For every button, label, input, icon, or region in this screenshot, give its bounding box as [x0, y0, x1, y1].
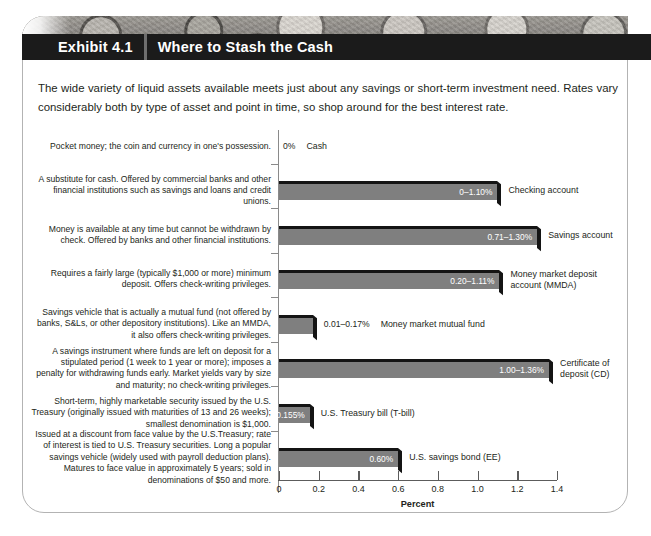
x-axis-tick-label: 0.4	[352, 484, 365, 494]
intro-paragraph: The wide variety of liquid assets availa…	[38, 79, 618, 117]
category-label: Money market deposit account (MMDA)	[510, 269, 597, 290]
x-axis-tick-label: 1.2	[511, 484, 524, 494]
chart-row: Issued at a discount from face value by …	[22, 436, 628, 480]
category-label: U.S. Treasury bill (T-bill)	[321, 408, 415, 419]
bar-value-label: 0.155%	[276, 410, 309, 420]
bar-wrapper: 0.01–0.17%Money market mutual fund	[279, 302, 485, 346]
y-axis-tick	[271, 253, 279, 254]
exhibit-number: Exhibit 4.1	[58, 39, 133, 55]
bar-wrapper: 0.155%U.S. Treasury bill (T-bill)	[279, 391, 415, 435]
category-label: Money market mutual fund	[381, 319, 485, 330]
x-axis-tick	[517, 471, 518, 480]
category-label: Savings account	[548, 230, 613, 241]
category-label: Checking account	[508, 185, 578, 196]
x-axis-tick-label: 1.4	[551, 484, 564, 494]
asset-description: A substitute for cash. Offered by commer…	[31, 174, 271, 208]
asset-description: Short-term, highly marketable security i…	[31, 396, 271, 430]
chart-row: Money is available at any time but canno…	[22, 213, 628, 257]
x-axis-tick	[438, 471, 439, 480]
asset-description: Requires a fairly large (typically $1,00…	[31, 268, 271, 291]
x-axis-tick-label: 0.2	[312, 484, 325, 494]
page-title: Where to Stash the Cash	[158, 39, 333, 55]
category-label: Certificate of deposit (CD)	[560, 358, 609, 379]
bar: 0.71–1.30%	[279, 226, 537, 245]
x-axis-tick	[478, 471, 479, 480]
bar: 0.60%	[279, 448, 398, 467]
chart-row: Requires a fairly large (typically $1,00…	[22, 258, 628, 302]
bar-value-label: 0–1.10%	[459, 187, 497, 197]
bar-value-label: 0.60%	[369, 454, 398, 464]
bar: 0.155%	[279, 404, 310, 423]
chart-row: A substitute for cash. Offered by commer…	[22, 169, 628, 213]
asset-description: A savings instrument where funds are lef…	[31, 346, 271, 392]
x-axis-tick-label: 0.6	[392, 484, 405, 494]
chart-row: Pocket money; the coin and currency in o…	[22, 124, 628, 168]
bar-value-label: 0.71–1.30%	[487, 232, 537, 242]
y-axis-tick	[271, 164, 279, 165]
asset-description: Issued at a discount from face value by …	[31, 429, 271, 486]
bar-wrapper: 1.00–1.36%Certificate of deposit (CD)	[279, 347, 609, 391]
x-axis-line	[278, 480, 557, 481]
bar: 0.20–1.11%	[279, 270, 499, 289]
category-label: U.S. savings bond (EE)	[409, 452, 500, 463]
x-axis-tick	[398, 471, 399, 480]
bar-wrapper: 0.60%U.S. savings bond (EE)	[279, 436, 501, 480]
bar-wrapper: 0.20–1.11%Money market deposit account (…	[279, 258, 597, 302]
x-axis-tick	[279, 471, 280, 480]
chart-row: Savings vehicle that is actually a mutua…	[22, 302, 628, 346]
x-axis-tick-label: 0	[276, 484, 281, 494]
x-axis-tick	[358, 471, 359, 480]
bar: 1.00–1.36%	[279, 359, 549, 378]
y-axis-tick	[271, 208, 279, 209]
bar-wrapper: 0–1.10%Checking account	[279, 169, 578, 213]
bar-value-label: 0.01–0.17%	[324, 319, 370, 329]
asset-description: Savings vehicle that is actually a mutua…	[31, 307, 271, 341]
x-axis-tick-label: 0.8	[432, 484, 445, 494]
bar-value-label: 1.00–1.36%	[499, 365, 549, 375]
y-axis-tick	[271, 386, 279, 387]
bar-value-label: 0.20–1.11%	[450, 276, 499, 286]
y-axis-tick	[271, 297, 279, 298]
bar-wrapper: 0%Cash	[279, 124, 327, 168]
bar: 0–1.10%	[279, 181, 497, 200]
bar-wrapper: 0.71–1.30%Savings account	[279, 213, 613, 257]
y-axis-tick	[271, 431, 279, 432]
title-divider	[144, 34, 147, 60]
title-bar-left-pad	[22, 34, 58, 60]
y-axis-tick	[271, 342, 279, 343]
bar	[279, 315, 313, 334]
bar-chart: Pocket money; the coin and currency in o…	[22, 118, 628, 514]
x-axis-label: Percent	[278, 499, 557, 509]
x-axis-tick	[319, 471, 320, 480]
bar-value-label: 0%	[283, 141, 295, 151]
x-axis-tick-label: 1.0	[471, 484, 484, 494]
chart-row: A savings instrument where funds are lef…	[22, 347, 628, 391]
asset-description: Money is available at any time but canno…	[31, 224, 271, 247]
exhibit-title-bar: Exhibit 4.1 Where to Stash the Cash	[22, 34, 651, 60]
category-label: Cash	[306, 141, 327, 152]
asset-description: Pocket money; the coin and currency in o…	[31, 141, 271, 152]
x-axis-tick	[557, 471, 558, 480]
